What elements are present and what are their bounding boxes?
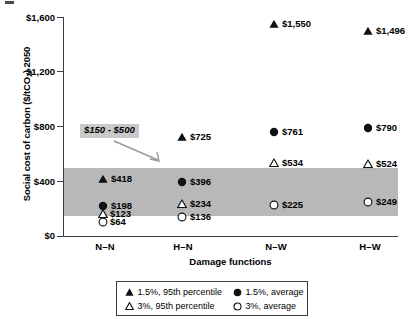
- legend-item-1p5-p95: 1.5%, 95th percentile: [125, 288, 233, 297]
- triangle-filled-icon: [363, 27, 373, 36]
- data-label: $524: [376, 159, 397, 169]
- y-tick-mark-1200: [57, 71, 63, 72]
- legend-label: 1.5%, average: [246, 288, 304, 297]
- triangle-filled-icon: [125, 288, 134, 296]
- data-label: $418: [111, 174, 132, 184]
- data-point-hn-p95-1p5: $725: [177, 132, 211, 142]
- circle-open-icon: [233, 302, 242, 311]
- x-tick-label-hw: H–W: [340, 241, 400, 252]
- data-point-nn-avg-3: $64: [98, 217, 126, 227]
- data-label: $1,550: [282, 19, 311, 29]
- legend-label: 3%, 95th percentile: [138, 302, 215, 311]
- triangle-open-icon: [125, 302, 134, 310]
- data-point-nw-p95-3: $534: [269, 158, 303, 168]
- data-point-nw-avg-1p5: $761: [269, 127, 303, 137]
- triangle-open-icon: [269, 159, 279, 168]
- legend-row-bottom: 3%, 95th percentile 3%, average: [117, 299, 307, 313]
- triangle-open-icon: [177, 200, 187, 209]
- data-label: $136: [190, 212, 211, 222]
- data-point-nw-avg-3: $225: [269, 200, 303, 210]
- x-tick-label-nn: N–N: [75, 241, 135, 252]
- triangle-filled-icon: [269, 20, 279, 29]
- circle-filled-icon: [177, 177, 187, 187]
- x-axis-line: [63, 236, 398, 237]
- y-tick-mark-1600: [57, 17, 63, 18]
- social-cost-of-carbon-scatter-chart: Social cost of carbon ($/tCO2) 2050 $1,6…: [0, 0, 406, 324]
- data-label: $1,496: [376, 26, 405, 36]
- legend-label: 1.5%, 95th percentile: [138, 288, 223, 297]
- data-label: $396: [190, 177, 211, 187]
- y-axis-tick-labels: $1,600 $1,200 $800 $400 $0: [0, 0, 55, 324]
- legend-item-1p5-avg: 1.5%, average: [233, 288, 304, 297]
- y-tick-label-800: $800: [11, 122, 55, 132]
- circle-open-icon: [98, 217, 108, 227]
- data-label: $725: [190, 132, 211, 142]
- circle-filled-icon: [269, 127, 279, 137]
- band-annotation-label: $150 - $500: [80, 124, 139, 138]
- data-label: $225: [282, 200, 303, 210]
- triangle-open-icon: [363, 160, 373, 169]
- data-label: $249: [376, 197, 397, 207]
- x-axis-title: Damage functions: [63, 256, 398, 267]
- circle-open-icon: [177, 212, 187, 222]
- data-label: $534: [282, 158, 303, 168]
- legend-label: 3%, average: [246, 302, 297, 311]
- triangle-filled-icon: [98, 175, 108, 184]
- data-point-hw-avg-1p5: $790: [363, 123, 397, 133]
- y-tick-mark-400: [57, 181, 63, 182]
- data-point-hn-avg-1p5: $396: [177, 177, 211, 187]
- y-tick-label-1600: $1,600: [11, 13, 55, 23]
- x-tick-label-hn: H–N: [153, 241, 213, 252]
- y-tick-mark-800: [57, 126, 63, 127]
- y-tick-label-0: $0: [11, 231, 55, 241]
- data-label: $234: [190, 199, 211, 209]
- data-point-hw-p95-1p5: $1,496: [363, 26, 405, 36]
- y-tick-label-1200: $1,200: [11, 67, 55, 77]
- annotation-arrow-icon: [112, 139, 166, 165]
- y-tick-mark-0: [57, 236, 63, 237]
- data-point-hn-avg-3: $136: [177, 212, 211, 222]
- data-label: $790: [376, 123, 397, 133]
- data-point-nn-p95-1p5: $418: [98, 174, 132, 184]
- chart-legend: 1.5%, 95th percentile 1.5%, average 3%, …: [116, 281, 308, 316]
- legend-item-3-avg: 3%, average: [233, 302, 296, 311]
- data-point-hw-avg-3: $249: [363, 197, 397, 207]
- y-tick-label-400: $400: [11, 177, 55, 187]
- data-point-hw-p95-3: $524: [363, 159, 397, 169]
- circle-filled-icon: [233, 288, 242, 297]
- x-tick-label-nw: N–W: [246, 241, 306, 252]
- data-label: $64: [110, 217, 126, 227]
- triangle-filled-icon: [177, 133, 187, 142]
- circle-open-icon: [363, 197, 373, 207]
- legend-item-3-p95: 3%, 95th percentile: [125, 302, 233, 311]
- legend-row-top: 1.5%, 95th percentile 1.5%, average: [117, 285, 307, 299]
- circle-open-icon: [269, 200, 279, 210]
- data-point-nw-p95-1p5: $1,550: [269, 19, 311, 29]
- data-label: $761: [282, 127, 303, 137]
- data-point-hn-p95-3: $234: [177, 199, 211, 209]
- circle-filled-icon: [363, 123, 373, 133]
